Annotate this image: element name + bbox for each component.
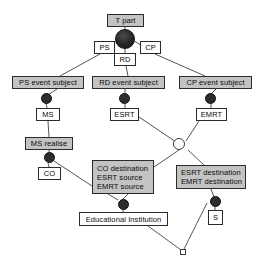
node-ms[interactable]: MS bbox=[36, 108, 60, 121]
junction-cp-event-subject[interactable] bbox=[205, 93, 216, 104]
node-esrt-destination-group[interactable]: ESRT destination EMRT destination bbox=[176, 165, 246, 189]
node-cp[interactable]: CP bbox=[140, 41, 161, 54]
edge-s_junction-to-bottom_terminal bbox=[184, 203, 207, 249]
terminal-square-node[interactable] bbox=[180, 249, 186, 255]
co-destination-line-1: CO destination bbox=[97, 164, 153, 173]
node-s[interactable]: S bbox=[208, 210, 223, 225]
junction-t-part[interactable] bbox=[115, 29, 135, 49]
edge-ps-to-ps_event_subject bbox=[60, 54, 100, 76]
junction-center-hollow[interactable] bbox=[173, 138, 185, 150]
junction-s[interactable] bbox=[210, 196, 221, 207]
node-ps[interactable]: PS bbox=[94, 41, 115, 54]
node-educational-institution[interactable]: Educational Institution bbox=[79, 212, 168, 226]
emrt-source-line-3: EMRT source bbox=[97, 182, 153, 191]
edge-co_destination_group-to-edu_inst_junction bbox=[108, 194, 118, 200]
junction-educational-institution[interactable] bbox=[118, 199, 129, 210]
node-t-part[interactable]: T part bbox=[107, 14, 144, 27]
edge-emrt-to-center_junction bbox=[186, 121, 199, 141]
node-rd-event-subject[interactable]: RD event subject bbox=[92, 76, 165, 89]
node-cp-event-subject[interactable]: CP event subject bbox=[179, 76, 252, 89]
edge-cp-to-cp_event_subject bbox=[155, 54, 205, 76]
node-ms-realise[interactable]: MS realise bbox=[25, 137, 73, 150]
esrt-destination-line-1: ESRT destination bbox=[181, 168, 245, 177]
node-rd[interactable]: RD bbox=[114, 53, 136, 66]
node-ps-event-subject[interactable]: PS event subject bbox=[12, 76, 84, 89]
junction-ms-realise[interactable] bbox=[44, 152, 55, 163]
junction-rd-event-subject[interactable] bbox=[119, 93, 130, 104]
edge-center_junction-to-esrt_destination_group bbox=[188, 150, 204, 165]
node-esrt[interactable]: ESRT bbox=[110, 108, 139, 121]
edge-educational_inst-to-bottom_terminal bbox=[148, 226, 181, 250]
node-co[interactable]: CO bbox=[38, 167, 61, 180]
node-emrt[interactable]: EMRT bbox=[196, 108, 227, 121]
esrt-source-line-2: ESRT source bbox=[97, 173, 153, 182]
diagram-edges-layer bbox=[0, 0, 272, 268]
edge-ms-to-ms_realise bbox=[48, 121, 49, 137]
node-co-destination-group[interactable]: CO destination ESRT source EMRT source bbox=[92, 160, 154, 194]
edge-rd-to-rd_event_subject bbox=[126, 66, 128, 76]
emrt-destination-line-2: EMRT destination bbox=[181, 177, 245, 186]
diagram-canvas: T part PS CP RD PS event subject RD even… bbox=[0, 0, 272, 268]
junction-ps-event-subject[interactable] bbox=[41, 93, 52, 104]
